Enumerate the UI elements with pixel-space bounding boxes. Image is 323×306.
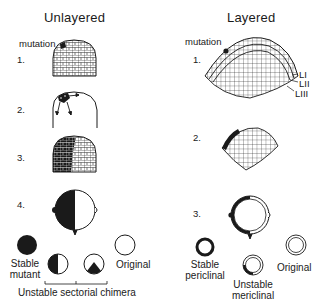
stable-mutant-icon [17, 235, 37, 255]
layered-crosssection-step3 [228, 196, 270, 239]
sectorial-chimera-wedge-icon [84, 254, 104, 274]
layered-original-icon [286, 235, 306, 255]
layered-meristem-step1 [200, 30, 300, 102]
unlayered-meristem-step1 [50, 38, 100, 78]
unstable-mericlinal-icon [243, 255, 263, 275]
layered-mutation-cell [223, 48, 228, 53]
diagram-canvas [0, 0, 323, 306]
sectorial-chimera-half-icon [48, 254, 68, 274]
unlayered-original-icon [115, 235, 135, 255]
unlayered-meristem-step3 [50, 134, 100, 174]
unlayered-meristem-step2 [53, 92, 97, 128]
unlayered-crosssection-step4 [52, 190, 97, 235]
chimera-bracket [45, 281, 107, 284]
stable-periclinal-icon [197, 239, 213, 255]
layered-meristem-step2 [218, 124, 282, 174]
